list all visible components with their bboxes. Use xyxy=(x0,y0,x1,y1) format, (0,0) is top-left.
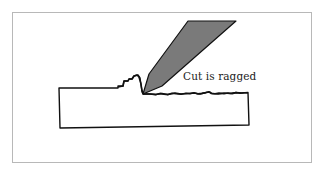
cutting-tool xyxy=(143,21,236,94)
cutting-diagram xyxy=(0,0,326,175)
annotation-cut-is-ragged: Cut is ragged xyxy=(183,70,256,82)
